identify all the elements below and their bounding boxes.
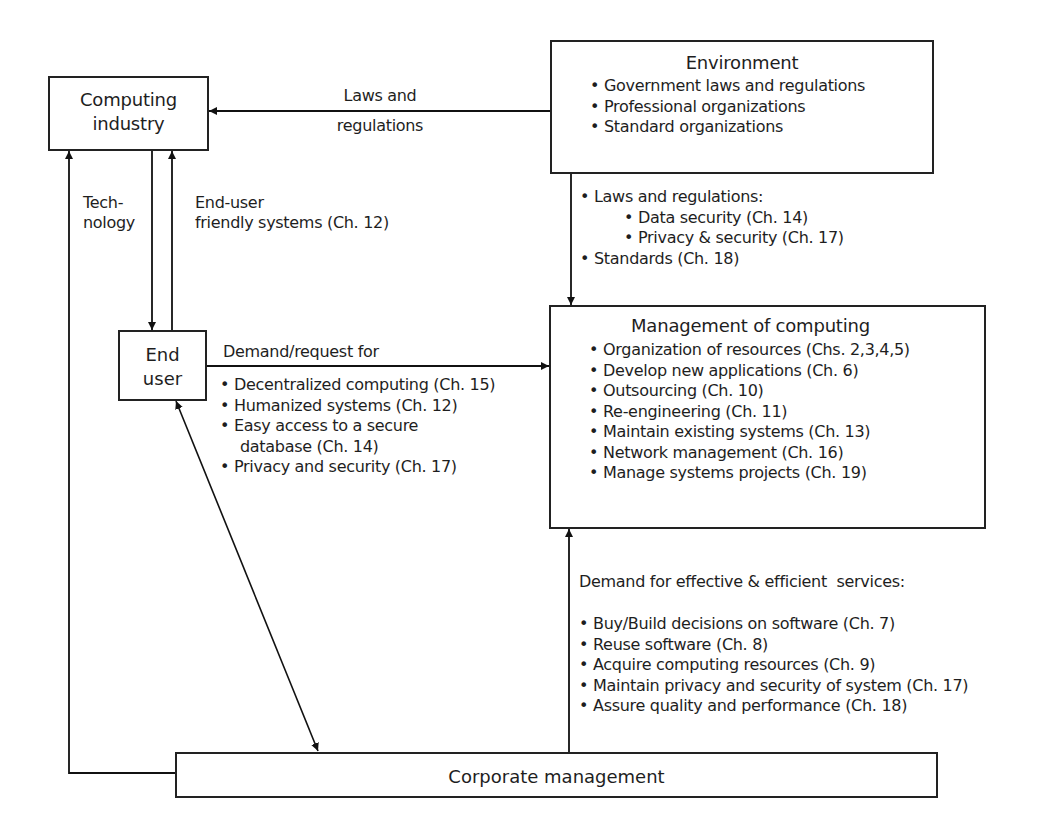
end-user-line1: End: [120, 343, 205, 367]
management-item: Outsourcing (Ch. 10): [587, 381, 984, 402]
env-to-management-tail: Standards (Ch. 18): [578, 249, 844, 270]
management-list: Organization of resources (Chs. 2,3,4,5)…: [587, 340, 984, 484]
environment-item: Professional organizations: [588, 97, 932, 118]
demand-request-list-wrap: Decentralized computing (Ch. 15) Humaniz…: [218, 375, 495, 478]
environment-list: Government laws and regulations Professi…: [588, 76, 932, 138]
env-to-management-heading: Laws and regulations:: [578, 187, 844, 208]
label-laws-line1: Laws and: [305, 86, 455, 106]
label-demand-request: Demand/request for: [223, 342, 379, 362]
computing-industry-line2: industry: [50, 112, 207, 136]
label-corporate-demand: Demand for effective & efficient service…: [579, 572, 905, 592]
label-technology: Tech- nology: [83, 193, 135, 233]
corporate-demand-list: Buy/Build decisions on software (Ch. 7) …: [577, 614, 968, 717]
demand-request-item: Decentralized computing (Ch. 15): [218, 375, 495, 396]
node-environment[interactable]: Environment Government laws and regulati…: [550, 40, 934, 174]
corporate-management-label: Corporate management: [177, 765, 936, 789]
arrow-corporate-to-industry: [69, 151, 175, 773]
demand-request-item-continued: database (Ch. 14): [218, 437, 495, 458]
demand-request-item: Privacy and security (Ch. 17): [218, 457, 495, 478]
label-technology-line2: nology: [83, 213, 135, 233]
env-to-management-sub-item: Privacy & security (Ch. 17): [578, 228, 844, 249]
node-end-user[interactable]: End user: [118, 330, 207, 401]
environment-item: Standard organizations: [588, 117, 932, 138]
node-computing-industry[interactable]: Computing industry: [48, 76, 209, 151]
label-env-to-industry: Laws and regulations: [305, 86, 455, 137]
demand-request-item: Humanized systems (Ch. 12): [218, 396, 495, 417]
label-end-user-friendly-line1: End-user: [195, 193, 389, 213]
end-user-line2: user: [120, 367, 205, 391]
label-end-user-friendly-line2: friendly systems (Ch. 12): [195, 213, 389, 233]
management-item: Maintain existing systems (Ch. 13): [587, 422, 984, 443]
management-item: Develop new applications (Ch. 6): [587, 361, 984, 382]
management-title: Management of computing: [551, 314, 950, 338]
node-management-of-computing[interactable]: Management of computing Organization of …: [549, 305, 986, 529]
env-to-management-list: Laws and regulations: Data security (Ch.…: [578, 187, 844, 269]
demand-request-item: Easy access to a secure: [218, 416, 495, 437]
env-to-management-sub-item: Data security (Ch. 14): [578, 208, 844, 229]
management-item: Manage systems projects (Ch. 19): [587, 463, 984, 484]
management-item: Re-engineering (Ch. 11): [587, 402, 984, 423]
environment-item: Government laws and regulations: [588, 76, 932, 97]
computing-industry-line1: Computing: [50, 88, 207, 112]
corporate-demand-item: Acquire computing resources (Ch. 9): [577, 655, 968, 676]
corporate-demand-item: Reuse software (Ch. 8): [577, 635, 968, 656]
management-item: Organization of resources (Chs. 2,3,4,5): [587, 340, 984, 361]
corporate-demand-list-wrap: Buy/Build decisions on software (Ch. 7) …: [577, 614, 968, 717]
corporate-demand-item: Buy/Build decisions on software (Ch. 7): [577, 614, 968, 635]
environment-title: Environment: [552, 51, 932, 75]
demand-request-list: Decentralized computing (Ch. 15) Humaniz…: [218, 375, 495, 478]
label-end-user-friendly: End-user friendly systems (Ch. 12): [195, 193, 389, 233]
label-technology-line1: Tech-: [83, 193, 135, 213]
label-laws-line2: regulations: [305, 115, 455, 137]
corporate-demand-item: Assure quality and performance (Ch. 18): [577, 696, 968, 717]
label-env-to-management: Laws and regulations: Data security (Ch.…: [578, 187, 844, 269]
management-item: Network management (Ch. 16): [587, 443, 984, 464]
corporate-demand-item: Maintain privacy and security of system …: [577, 676, 968, 697]
node-corporate-management[interactable]: Corporate management: [175, 752, 938, 798]
